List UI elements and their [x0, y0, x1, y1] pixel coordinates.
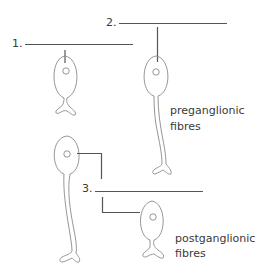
- neuron-4: [140, 201, 163, 258]
- neuron-3: [54, 136, 79, 262]
- postganglionic-label: postganglionic: [175, 232, 255, 245]
- neuron-1: [54, 56, 77, 115]
- blank-3-number: 3.: [82, 182, 93, 195]
- blank-1-number: 1.: [12, 37, 23, 50]
- pointer-3a: [77, 154, 102, 180]
- blank-2-number: 2.: [106, 16, 117, 29]
- neuron-2: [144, 56, 171, 174]
- pointer-3b: [103, 197, 141, 213]
- preganglionic-fibres-label: fibres: [170, 120, 201, 133]
- preganglionic-label: preganglionic: [170, 104, 245, 117]
- postganglionic-fibres-label: fibres: [175, 247, 206, 260]
